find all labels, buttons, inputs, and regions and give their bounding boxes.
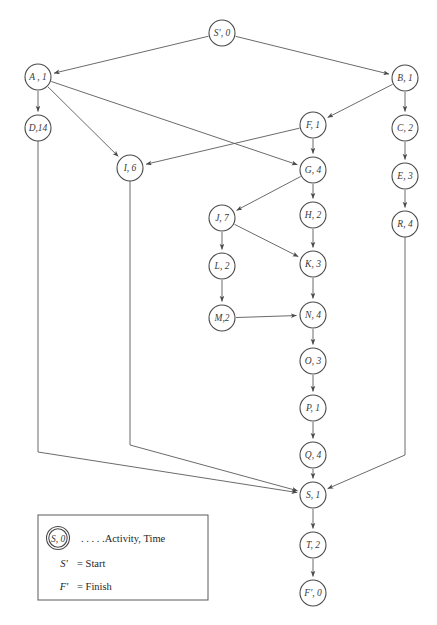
network-diagram-page: S', 0A , 1B, 1D,14F, 1C, 2I, 6G, 4E, 3J,… xyxy=(0,0,437,625)
node-label-A: A , 1 xyxy=(28,72,47,82)
node-I[interactable]: I, 6 xyxy=(117,155,143,181)
node-B[interactable]: B, 1 xyxy=(392,65,418,91)
edge-M-to-N xyxy=(236,316,297,318)
legend-sample-node-label: S, 0 xyxy=(51,534,66,544)
node-label-F: F, 1 xyxy=(305,120,320,130)
node-label-O: O, 3 xyxy=(305,356,322,366)
node-L[interactable]: L, 2 xyxy=(209,253,235,279)
legend-start-symbol: S' xyxy=(60,558,68,569)
node-label-G: G, 4 xyxy=(305,165,322,175)
node-label-N: N, 4 xyxy=(304,310,321,320)
node-label-J: J, 7 xyxy=(215,213,230,223)
node-Fp[interactable]: F', 0 xyxy=(300,580,326,606)
node-F[interactable]: F, 1 xyxy=(300,112,326,138)
edge-B-to-F xyxy=(328,84,393,117)
node-label-D: D,14 xyxy=(28,123,48,133)
node-O[interactable]: O, 3 xyxy=(300,348,326,374)
activity-network-graph: S', 0A , 1B, 1D,14F, 1C, 2I, 6G, 4E, 3J,… xyxy=(0,0,437,625)
legend-start-text: = Start xyxy=(77,558,105,569)
node-label-C: C, 2 xyxy=(397,123,413,133)
node-label-S: S, 1 xyxy=(306,490,320,500)
edge-R-to-S xyxy=(328,237,405,489)
edge-Sp-to-A xyxy=(54,36,208,73)
node-label-H: H, 2 xyxy=(304,210,322,220)
node-J[interactable]: J, 7 xyxy=(209,205,235,231)
node-D[interactable]: D,14 xyxy=(25,115,51,141)
node-label-P: P, 1 xyxy=(305,403,320,413)
legend: S, 0 . . . . .Activity, Time S' = Start … xyxy=(38,515,208,600)
node-H[interactable]: H, 2 xyxy=(300,202,326,228)
node-P[interactable]: P, 1 xyxy=(300,395,326,421)
node-T[interactable]: T, 2 xyxy=(300,532,326,558)
legend-finish-symbol: F' xyxy=(59,581,69,592)
node-S[interactable]: S, 1 xyxy=(300,482,326,508)
node-M[interactable]: M,2 xyxy=(209,305,235,331)
edge-A-to-I xyxy=(48,87,118,157)
nodes-layer: S', 0A , 1B, 1D,14F, 1C, 2I, 6G, 4E, 3J,… xyxy=(25,20,418,606)
edge-G-to-J xyxy=(237,177,301,211)
node-label-R: R, 4 xyxy=(396,219,413,229)
node-label-Fp: F', 0 xyxy=(303,588,322,598)
node-A[interactable]: A , 1 xyxy=(25,64,51,90)
node-label-Sp: S', 0 xyxy=(214,28,231,38)
node-Q[interactable]: Q, 4 xyxy=(300,442,326,468)
node-G[interactable]: G, 4 xyxy=(300,157,326,183)
node-label-B: B, 1 xyxy=(397,73,412,83)
legend-finish-text: = Finish xyxy=(77,581,113,592)
node-R[interactable]: R, 4 xyxy=(392,211,418,237)
edge-A-to-G xyxy=(51,81,297,164)
node-label-Q: Q, 4 xyxy=(305,450,322,460)
edge-F-to-I xyxy=(146,128,299,164)
node-label-I: I, 6 xyxy=(123,163,137,173)
node-label-E: E, 3 xyxy=(396,171,413,181)
node-label-K: K, 3 xyxy=(304,259,321,269)
node-label-M: M,2 xyxy=(213,313,229,323)
node-label-T: T, 2 xyxy=(306,540,320,550)
node-K[interactable]: K, 3 xyxy=(300,251,326,277)
edge-Sp-to-B xyxy=(236,36,389,74)
node-E[interactable]: E, 3 xyxy=(392,163,418,189)
node-label-L: L, 2 xyxy=(214,261,230,271)
node-N[interactable]: N, 4 xyxy=(300,302,326,328)
edge-J-to-K xyxy=(234,224,298,256)
node-Sp[interactable]: S', 0 xyxy=(209,20,235,46)
node-C[interactable]: C, 2 xyxy=(392,115,418,141)
legend-sample-caption: . . . . .Activity, Time xyxy=(81,533,166,544)
